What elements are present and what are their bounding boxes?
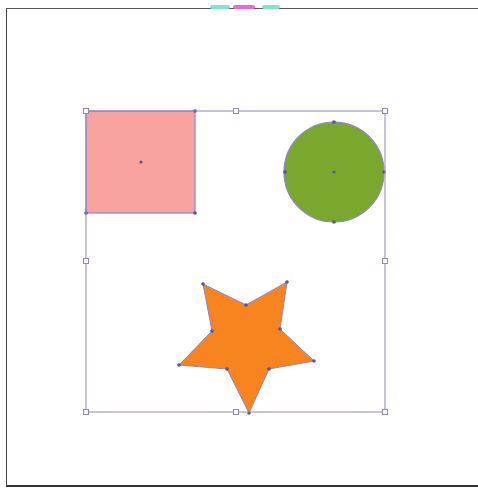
resize-handle[interactable] xyxy=(234,410,239,415)
resize-handle[interactable] xyxy=(383,259,388,264)
resize-handle[interactable] xyxy=(234,109,239,114)
anchor-point[interactable] xyxy=(283,170,287,174)
anchor-point[interactable] xyxy=(267,367,271,371)
star-shape[interactable] xyxy=(179,282,314,413)
anchor-point[interactable] xyxy=(193,211,197,215)
drawing-canvas[interactable] xyxy=(0,0,478,496)
shapes-layer xyxy=(84,109,386,415)
anchor-point[interactable] xyxy=(244,303,248,307)
anchor-point[interactable] xyxy=(201,282,205,286)
anchor-point[interactable] xyxy=(225,367,229,371)
resize-handle[interactable] xyxy=(84,109,89,114)
resize-handle[interactable] xyxy=(383,410,388,415)
anchor-point[interactable] xyxy=(210,329,214,333)
anchor-point[interactable] xyxy=(278,327,282,331)
center-point xyxy=(332,170,335,173)
anchor-point[interactable] xyxy=(285,280,289,284)
anchor-point[interactable] xyxy=(312,359,316,363)
anchor-point[interactable] xyxy=(177,363,181,367)
center-point xyxy=(139,160,142,163)
resize-handle[interactable] xyxy=(84,259,89,264)
resize-handle[interactable] xyxy=(383,109,388,114)
anchor-point[interactable] xyxy=(332,220,336,224)
anchor-point[interactable] xyxy=(332,120,336,124)
resize-handle[interactable] xyxy=(84,410,89,415)
